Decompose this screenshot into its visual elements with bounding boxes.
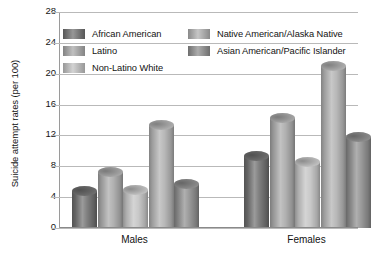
- legend-label: Native American/Alaska Native: [217, 29, 343, 39]
- legend-swatch: [63, 63, 85, 73]
- y-axis-tick-mark: [51, 197, 60, 198]
- y-axis-tick-label: 24: [16, 36, 56, 47]
- legend-label: Asian American/Pacific Islander: [217, 46, 346, 56]
- legend-item: African American: [63, 26, 163, 41]
- bar-body: [295, 162, 320, 228]
- bar-body: [321, 66, 346, 228]
- y-axis-tick-mark: [51, 166, 60, 167]
- bar: [346, 132, 371, 228]
- y-axis-tick-mark: [51, 12, 60, 13]
- bar: [98, 167, 123, 228]
- bar: [244, 151, 269, 228]
- bar-body: [72, 191, 97, 228]
- y-axis-tick-label: 16: [16, 98, 56, 109]
- bar: [295, 157, 320, 228]
- y-axis-tick-label: 12: [16, 128, 56, 139]
- gridline: [60, 12, 358, 13]
- y-axis-tick-mark: [51, 228, 60, 229]
- legend-label: Latino: [92, 46, 117, 56]
- y-axis-tick-mark: [51, 105, 60, 106]
- legend-label: African American: [92, 29, 161, 39]
- bar: [321, 61, 346, 228]
- y-axis-line: [59, 12, 60, 228]
- bar-body: [270, 118, 295, 228]
- bar-body: [123, 190, 148, 228]
- y-axis-tick-mark: [51, 135, 60, 136]
- legend-swatch: [188, 29, 210, 39]
- legend-item: Asian American/Pacific Islander: [188, 43, 346, 58]
- y-axis-tick-mark: [51, 43, 60, 44]
- legend-label: Non-Latino White: [92, 63, 163, 73]
- y-axis-tick-label: 4: [16, 190, 56, 201]
- bar-cap-shading: [346, 132, 371, 142]
- legend-swatch: [63, 46, 85, 56]
- y-axis-tick-mark: [51, 74, 60, 75]
- legend-item: Non-Latino White: [63, 60, 163, 75]
- legend-swatch: [63, 29, 85, 39]
- bar-cap-shading: [98, 167, 123, 177]
- bar: [174, 179, 199, 228]
- legend-column-left: African AmericanLatinoNon-Latino White: [63, 26, 163, 77]
- bar-cap-shading: [72, 186, 97, 196]
- bar: [149, 120, 174, 228]
- bar-cap-shading: [295, 157, 320, 167]
- x-axis-group-label: Males: [75, 234, 195, 245]
- bar-body: [346, 137, 371, 228]
- x-axis-line: [60, 227, 358, 228]
- bar-body: [244, 156, 269, 228]
- legend-column-right: Native American/Alaska NativeAsian Ameri…: [188, 26, 346, 60]
- bar-body: [149, 125, 174, 228]
- bar-body: [174, 184, 199, 228]
- chart-legend: African AmericanLatinoNon-Latino White N…: [63, 26, 363, 78]
- bar-body: [98, 172, 123, 228]
- bar-cap: [346, 132, 371, 142]
- y-axis-tick-label: 28: [16, 5, 56, 16]
- y-axis-tick-label: 0: [16, 221, 56, 232]
- legend-item: Latino: [63, 43, 163, 58]
- bar: [123, 185, 148, 228]
- x-axis-group-label: Females: [247, 234, 367, 245]
- bar-cap-shading: [270, 113, 295, 123]
- y-axis-tick-label: 8: [16, 159, 56, 170]
- bar-cap: [72, 186, 97, 196]
- gridline: [60, 105, 358, 106]
- gridline: [60, 135, 358, 136]
- bar: [270, 113, 295, 228]
- bar-cap: [295, 157, 320, 167]
- bar: [72, 186, 97, 228]
- legend-item: Native American/Alaska Native: [188, 26, 346, 41]
- gridline: [60, 228, 358, 229]
- bar-cap: [98, 167, 123, 177]
- y-axis-tick-label: 20: [16, 67, 56, 78]
- legend-swatch: [188, 46, 210, 56]
- bar-cap: [270, 113, 295, 123]
